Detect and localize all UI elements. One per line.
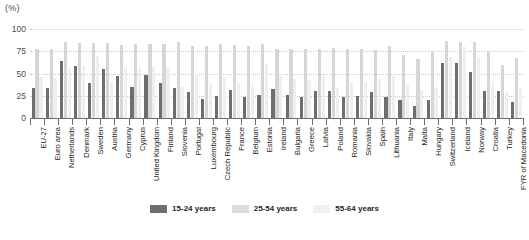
bar-group — [284, 29, 298, 118]
x-tick-mark — [340, 118, 354, 125]
bar-group — [312, 29, 326, 118]
bar-group — [467, 29, 481, 118]
bar — [346, 49, 349, 118]
legend-swatch — [232, 205, 249, 213]
bar — [384, 97, 387, 118]
x-tick-mark — [438, 118, 452, 125]
chart-legend: 15-24 years25-54 years55-64 years — [0, 204, 529, 213]
x-tick-mark — [326, 118, 340, 125]
x-label-cell: Croatia — [482, 127, 496, 199]
bar — [459, 42, 462, 118]
bar — [293, 79, 296, 118]
bar — [88, 83, 91, 118]
bar — [130, 87, 133, 118]
bar — [314, 91, 317, 118]
bar-group — [199, 29, 213, 118]
bar — [455, 63, 458, 118]
bar — [35, 49, 38, 118]
legend-swatch — [313, 205, 330, 213]
bar-group — [340, 29, 354, 118]
x-label-cell: Cyprus — [129, 127, 143, 199]
bar-group — [72, 29, 86, 118]
bar-group — [157, 29, 171, 118]
bar-group — [510, 29, 524, 118]
x-label-cell: Iceland — [453, 127, 467, 199]
plot-area — [30, 29, 524, 118]
bar-group — [482, 29, 496, 118]
x-tick-mark — [297, 118, 311, 125]
bar — [434, 88, 437, 118]
x-tick-mark — [269, 118, 283, 125]
bar — [378, 79, 381, 118]
x-label-cell: Estonia — [256, 127, 270, 199]
bar — [233, 45, 236, 118]
bar-group — [185, 29, 199, 118]
x-label-cell: Finland — [157, 127, 171, 199]
bar — [364, 82, 367, 118]
bar-group — [30, 29, 44, 118]
bar — [336, 88, 339, 118]
bar — [469, 72, 472, 118]
bar-group — [496, 29, 510, 118]
bar — [427, 100, 430, 118]
bar — [162, 44, 165, 118]
x-label-cell: Euro area — [44, 127, 58, 199]
bar-group — [397, 29, 411, 118]
bar — [247, 46, 250, 118]
bar — [289, 49, 292, 118]
x-label-cell: Denmark — [72, 127, 86, 199]
bar — [237, 83, 240, 118]
bar — [215, 96, 218, 118]
x-tick-mark — [382, 118, 396, 125]
bar-group — [101, 29, 115, 118]
y-tick-label-100: 100 — [0, 24, 26, 34]
bar-group — [439, 29, 453, 118]
x-label-cell: Austria — [101, 127, 115, 199]
bar — [251, 85, 254, 118]
bar — [195, 74, 198, 118]
bar — [191, 46, 194, 118]
bar — [342, 97, 345, 118]
bar — [265, 64, 268, 118]
bar — [445, 41, 448, 118]
bar — [92, 43, 95, 118]
x-tick-mark — [143, 118, 157, 125]
bar — [374, 50, 377, 118]
bar — [463, 47, 466, 118]
x-label-cell: Latvia — [312, 127, 326, 199]
bar — [449, 57, 452, 118]
bar — [78, 43, 81, 118]
bar — [413, 106, 416, 118]
y-tick-label-75: 75 — [0, 46, 26, 56]
bar — [159, 83, 162, 118]
x-tick-mark — [410, 118, 424, 125]
bar — [388, 46, 391, 118]
x-label-cell: Sweden — [86, 127, 100, 199]
bar — [39, 77, 42, 118]
bar-group — [326, 29, 340, 118]
y-tick-label-50: 50 — [0, 69, 26, 79]
bar — [300, 97, 303, 118]
bar — [279, 74, 282, 119]
bar — [187, 92, 190, 118]
x-tick-mark — [255, 118, 269, 125]
bar — [501, 65, 504, 118]
bar — [511, 102, 514, 118]
bar — [148, 44, 151, 118]
x-tick-mark — [100, 118, 114, 125]
x-label-cell: Netherlands — [58, 127, 72, 199]
bar — [392, 75, 395, 118]
x-tick-mark — [86, 118, 100, 125]
x-label-cell: United Kingdom — [143, 127, 157, 199]
bar — [519, 88, 522, 118]
bar — [64, 42, 67, 118]
x-label-cell: Hungary — [425, 127, 439, 199]
x-label-cell: Turkey — [496, 127, 510, 199]
x-tick-mark — [185, 118, 199, 125]
bar — [68, 69, 71, 118]
legend-label: 55-64 years — [335, 204, 379, 213]
bar — [82, 66, 85, 118]
bar — [219, 44, 222, 118]
bar-group — [453, 29, 467, 118]
x-tick-mark — [354, 118, 368, 125]
